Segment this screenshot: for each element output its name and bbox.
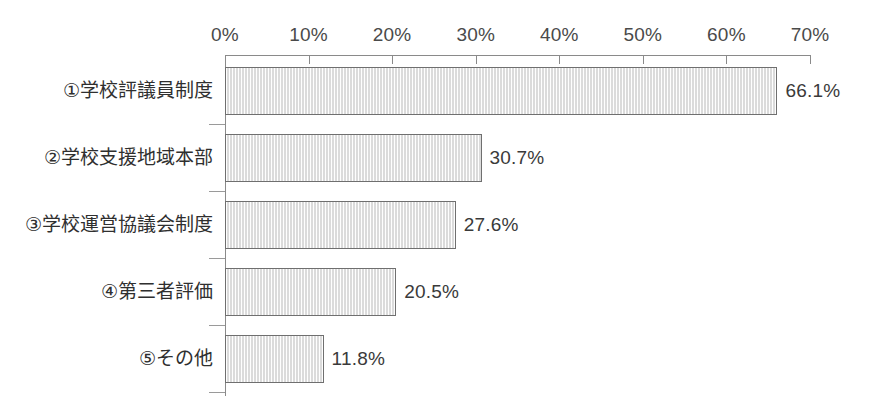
x-axis-tick-label: 50%	[624, 24, 663, 46]
x-axis-tick-mark	[559, 55, 560, 64]
category-label: ①学校評議員制度	[0, 80, 213, 102]
bar-chart: 0%10%20%30%40%50%60%70%①学校評議員制度66.1%②学校支…	[0, 0, 874, 418]
x-axis-tick-label: 60%	[707, 24, 746, 46]
category-label: ②学校支援地域本部	[0, 147, 213, 169]
category-label: ⑤その他	[0, 348, 213, 370]
bar-3	[225, 201, 456, 249]
x-axis-tick-mark	[643, 55, 644, 64]
x-axis-tick-mark	[726, 55, 727, 64]
x-axis-tick-mark	[392, 55, 393, 64]
x-axis-tick-label: 30%	[456, 24, 495, 46]
bar-2	[225, 134, 482, 182]
y-axis-tick-mark	[209, 191, 225, 192]
x-axis-line	[225, 55, 810, 56]
category-label: ④第三者評価	[0, 281, 213, 303]
category-label: ③学校運営協議会制度	[0, 214, 213, 236]
y-axis-tick-mark	[209, 392, 225, 393]
y-axis-tick-mark	[209, 258, 225, 259]
bar-value-label: 27.6%	[464, 214, 519, 236]
x-axis-tick-label: 10%	[289, 24, 328, 46]
bar-5	[225, 335, 324, 383]
bar-value-label: 20.5%	[404, 281, 459, 303]
bar-1	[225, 67, 777, 115]
y-axis-tick-mark	[209, 325, 225, 326]
x-axis-tick-mark	[476, 55, 477, 64]
x-axis-tick-mark	[309, 55, 310, 64]
bar-value-label: 11.8%	[332, 348, 385, 370]
bar-4	[225, 268, 396, 316]
x-axis-tick-label: 70%	[791, 24, 830, 46]
bar-value-label: 30.7%	[490, 147, 545, 169]
bar-value-label: 66.1%	[785, 80, 840, 102]
x-axis-tick-label: 0%	[211, 24, 239, 46]
x-axis-tick-label: 40%	[540, 24, 579, 46]
y-axis-tick-mark	[209, 124, 225, 125]
x-axis-tick-label: 20%	[373, 24, 412, 46]
x-axis-tick-mark	[810, 55, 811, 64]
